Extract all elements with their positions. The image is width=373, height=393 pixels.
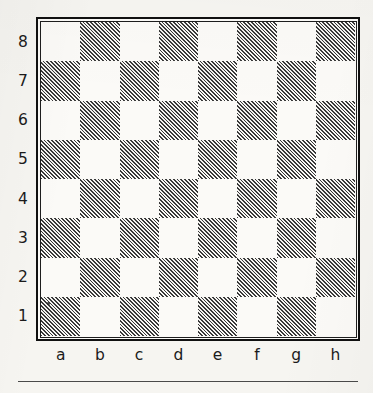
- board-square-b5: [80, 140, 119, 179]
- board-square-c5: [120, 140, 159, 179]
- board-square-b7: [80, 61, 119, 100]
- board-square-a6: [41, 101, 80, 140]
- file-label-c: c: [120, 344, 159, 366]
- board-square-e5: [198, 140, 237, 179]
- board-square-f6: [237, 101, 276, 140]
- rank-label-7: 7: [11, 61, 35, 100]
- board-square-c3: [120, 218, 159, 257]
- board-square-c6: [120, 101, 159, 140]
- board-square-b3: [80, 218, 119, 257]
- board-square-b1: [80, 297, 119, 336]
- board-square-g2: [277, 258, 316, 297]
- rank-label-3: 3: [11, 218, 35, 257]
- board-square-b8: [80, 22, 119, 61]
- board-square-c8: [120, 22, 159, 61]
- board-square-d5: [159, 140, 198, 179]
- board-square-e8: [198, 22, 237, 61]
- board-square-f3: [237, 218, 276, 257]
- board-square-a5: [41, 140, 80, 179]
- board-square-e3: [198, 218, 237, 257]
- board-square-d4: [159, 179, 198, 218]
- board-square-g1: [277, 297, 316, 336]
- board-square-b4: [80, 179, 119, 218]
- board-square-g5: [277, 140, 316, 179]
- file-label-d: d: [159, 344, 198, 366]
- board-square-g3: [277, 218, 316, 257]
- caption-divider-rule: [18, 381, 358, 382]
- rank-label-column: 8 7 6 5 4 3 2 1: [11, 22, 35, 336]
- board-square-b2: [80, 258, 119, 297]
- board-square-h4: [316, 179, 355, 218]
- board-square-c4: [120, 179, 159, 218]
- board-square-h5: [316, 140, 355, 179]
- board-square-h2: [316, 258, 355, 297]
- board-square-d7: [159, 61, 198, 100]
- board-square-d6: [159, 101, 198, 140]
- board-square-f2: [237, 258, 276, 297]
- file-label-row: a b c d e f g h: [41, 344, 355, 366]
- board-square-g6: [277, 101, 316, 140]
- board-square-a7: [41, 61, 80, 100]
- file-label-a: a: [41, 344, 80, 366]
- board-square-e2: [198, 258, 237, 297]
- chess-coordinate-diagram: 8 7 6 5 4 3 2 1 a b c d e f g h: [0, 0, 373, 393]
- board-square-d2: [159, 258, 198, 297]
- rank-label-1: 1: [11, 297, 35, 336]
- board-square-f7: [237, 61, 276, 100]
- board-square-h3: [316, 218, 355, 257]
- board-square-h1: [316, 297, 355, 336]
- board-square-c1: [120, 297, 159, 336]
- rank-label-5: 5: [11, 140, 35, 179]
- board-square-f1: [237, 297, 276, 336]
- print-speck: [47, 302, 50, 305]
- board-square-h8: [316, 22, 355, 61]
- board-square-c7: [120, 61, 159, 100]
- board-square-e7: [198, 61, 237, 100]
- board-square-f5: [237, 140, 276, 179]
- board-square-e6: [198, 101, 237, 140]
- rank-label-6: 6: [11, 101, 35, 140]
- board-square-f8: [237, 22, 276, 61]
- rank-label-4: 4: [11, 179, 35, 218]
- board-square-e1: [198, 297, 237, 336]
- board-square-g8: [277, 22, 316, 61]
- board-square-h6: [316, 101, 355, 140]
- board-square-a4: [41, 179, 80, 218]
- file-label-h: h: [316, 344, 355, 366]
- board-square-a8: [41, 22, 80, 61]
- board-square-h7: [316, 61, 355, 100]
- chessboard-grid: [41, 22, 355, 336]
- file-label-b: b: [80, 344, 119, 366]
- board-square-g4: [277, 179, 316, 218]
- board-square-a2: [41, 258, 80, 297]
- board-square-c2: [120, 258, 159, 297]
- board-square-e4: [198, 179, 237, 218]
- board-square-d8: [159, 22, 198, 61]
- rank-label-8: 8: [11, 22, 35, 61]
- board-square-d3: [159, 218, 198, 257]
- board-square-b6: [80, 101, 119, 140]
- file-label-g: g: [277, 344, 316, 366]
- board-square-g7: [277, 61, 316, 100]
- file-label-e: e: [198, 344, 237, 366]
- rank-label-2: 2: [11, 258, 35, 297]
- file-label-f: f: [237, 344, 276, 366]
- board-square-f4: [237, 179, 276, 218]
- board-square-d1: [159, 297, 198, 336]
- board-square-a3: [41, 218, 80, 257]
